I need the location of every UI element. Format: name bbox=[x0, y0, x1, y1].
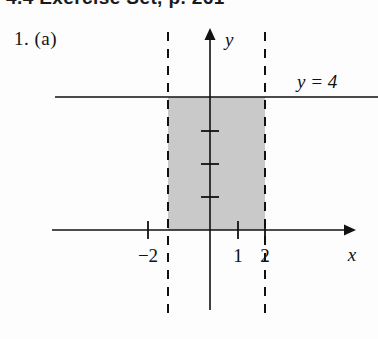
coordinate-plane-figure: −2 1 2 x y y = 4 bbox=[0, 0, 378, 339]
x-tick-label-1: 1 bbox=[233, 245, 243, 266]
textbook-figure-page: 4.4 Exercise Set, p. 261 1. (a) bbox=[0, 0, 378, 339]
x-tick-label-2: 2 bbox=[260, 245, 270, 266]
y-axis-label: y bbox=[223, 29, 234, 50]
line-label-y-equals-4: y = 4 bbox=[295, 71, 338, 92]
x-axis-arrowhead bbox=[344, 225, 356, 236]
x-axis-label: x bbox=[347, 244, 357, 265]
x-tick-label-minus-2: −2 bbox=[138, 245, 158, 266]
y-axis-arrowhead bbox=[205, 28, 216, 40]
